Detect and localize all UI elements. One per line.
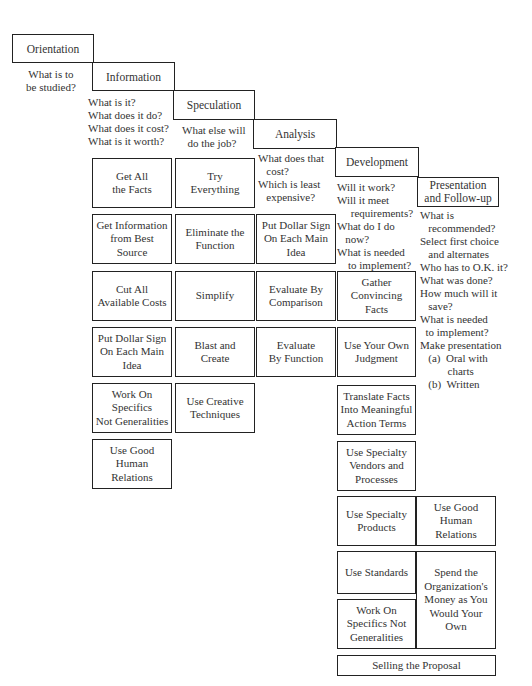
technique-specialty-vendors: Use Specialty Vendors and Processes	[337, 441, 416, 491]
stage-label: Information	[106, 70, 161, 84]
technique-own-judgment: Use Your Own Judgment	[337, 327, 416, 377]
technique-spend-money: Spend the Organization's Money as You Wo…	[416, 551, 496, 649]
technique-evaluate-comparison: Evaluate By Comparison	[256, 271, 336, 321]
stage-speculation: Speculation	[173, 90, 255, 120]
technique-work-on-specifics-dev: Work On Specifics Not Generalities	[337, 599, 416, 649]
questions-presentation: What is recommended? Select first choice…	[420, 209, 508, 391]
technique-blast-create: Blast and Create	[175, 327, 255, 377]
selling-the-proposal: Selling the Proposal	[337, 655, 496, 676]
stage-label: Orientation	[27, 42, 79, 56]
questions-development: Will it work? Will it meet requirements?…	[337, 181, 413, 272]
stage-development: Development	[335, 147, 419, 177]
technique-cut-costs: Cut All Available Costs	[92, 271, 172, 321]
stage-label: Analysis	[275, 127, 315, 141]
questions-speculation: What else will do the job?	[182, 124, 246, 150]
questions-orientation: What is to be studied?	[26, 68, 76, 94]
stage-information: Information	[92, 62, 175, 91]
technique-human-relations: Use Good Human Relations	[92, 439, 172, 489]
stage-presentation: Presentation and Follow-up	[417, 177, 499, 207]
stage-label: Speculation	[187, 98, 241, 112]
stage-label: Development	[346, 155, 408, 169]
stage-analysis: Analysis	[253, 119, 337, 149]
technique-get-information: Get Information from Best Source	[92, 214, 172, 264]
technique-evaluate-function: Evaluate By Function	[256, 327, 336, 377]
technique-specialty-products: Use Specialty Products	[337, 496, 416, 546]
technique-translate-facts: Translate Facts Into Meaningful Action T…	[337, 385, 416, 435]
technique-creative-techniques: Use Creative Techniques	[175, 383, 255, 433]
questions-analysis: What does that cost? Which is least expe…	[258, 152, 324, 204]
technique-simplify: Simplify	[175, 271, 255, 321]
questions-information: What is it? What does it do? What does i…	[88, 96, 169, 148]
technique-work-on-specifics: Work On Specifics Not Generalities	[92, 383, 172, 433]
technique-dollar-sign-analysis: Put Dollar Sign On Each Main Idea	[256, 214, 336, 264]
technique-use-standards: Use Standards	[337, 551, 416, 594]
technique-human-relations-pres: Use Good Human Relations	[416, 496, 496, 546]
stage-label: Presentation and Follow-up	[424, 179, 491, 205]
technique-try-everything: Try Everything	[175, 158, 255, 208]
technique-gather-facts: Gather Convincing Facts	[337, 271, 416, 321]
stage-orientation: Orientation	[12, 34, 94, 63]
technique-get-all-facts: Get All the Facts	[92, 158, 172, 208]
technique-eliminate-function: Eliminate the Function	[175, 214, 255, 264]
technique-dollar-sign: Put Dollar Sign On Each Main Idea	[92, 327, 172, 377]
